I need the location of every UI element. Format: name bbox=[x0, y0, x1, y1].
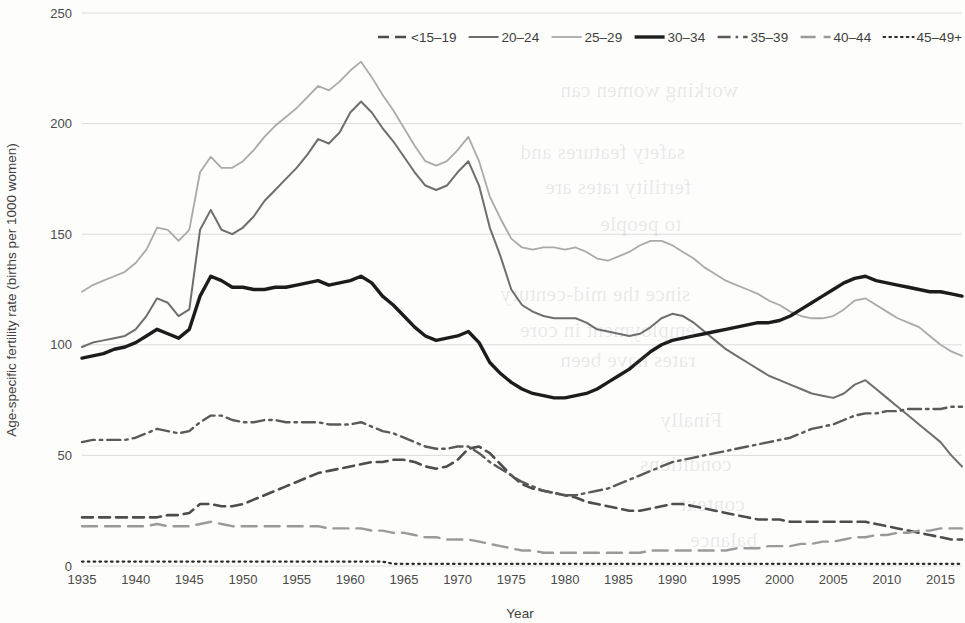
legend-label-6: 45–49+ bbox=[917, 30, 963, 45]
x-tick-2010: 2010 bbox=[872, 572, 901, 587]
x-tick-1995: 1995 bbox=[711, 572, 740, 587]
x-tick-2005: 2005 bbox=[819, 572, 848, 587]
series-group bbox=[82, 62, 962, 564]
legend-label-2: 25–29 bbox=[585, 30, 623, 45]
legend-label-3: 30–34 bbox=[668, 30, 706, 45]
series-line-2 bbox=[82, 62, 962, 356]
legend-item-1[interactable]: 20–24 bbox=[469, 30, 540, 45]
x-tick-1935: 1935 bbox=[68, 572, 97, 587]
legend-label-0: <15–19 bbox=[411, 30, 456, 45]
y-axis-title: Age-specific fertility rate (births per … bbox=[4, 143, 19, 436]
series-line-5 bbox=[82, 522, 962, 553]
series-line-3 bbox=[82, 276, 962, 398]
x-tick-1975: 1975 bbox=[497, 572, 526, 587]
legend-item-0[interactable]: <15–19 bbox=[378, 30, 456, 45]
legend-item-4[interactable]: 35–39 bbox=[718, 30, 789, 45]
series-line-0 bbox=[82, 447, 962, 540]
series-line-6 bbox=[82, 562, 962, 564]
x-tick-2000: 2000 bbox=[765, 572, 794, 587]
chart-canvas: 050100150200250 193519401945195019551960… bbox=[0, 0, 965, 623]
legend-item-3[interactable]: 30–34 bbox=[635, 30, 706, 45]
y-tick-150: 150 bbox=[50, 227, 72, 242]
x-tick-1980: 1980 bbox=[550, 572, 579, 587]
legend-item-6[interactable]: 45–49+ bbox=[884, 30, 963, 45]
y-tick-250: 250 bbox=[50, 6, 72, 21]
x-tick-2015: 2015 bbox=[926, 572, 955, 587]
legend-item-5[interactable]: 40–44 bbox=[801, 30, 872, 45]
legend-label-4: 35–39 bbox=[751, 30, 789, 45]
x-tick-1940: 1940 bbox=[121, 572, 150, 587]
y-tick-100: 100 bbox=[50, 337, 72, 352]
x-tick-1950: 1950 bbox=[229, 572, 258, 587]
y-tick-50: 50 bbox=[58, 448, 72, 463]
x-axis-title: Year bbox=[506, 606, 534, 621]
fertility-rate-chart: working women cansafety features andfert… bbox=[0, 0, 965, 623]
x-tick-1990: 1990 bbox=[658, 572, 687, 587]
series-line-4 bbox=[82, 407, 962, 495]
x-tick-1965: 1965 bbox=[389, 572, 418, 587]
x-tick-1985: 1985 bbox=[604, 572, 633, 587]
x-tick-1955: 1955 bbox=[282, 572, 311, 587]
x-axis-tick-labels: 1935194019451950195519601965197019751980… bbox=[68, 572, 955, 587]
y-tick-200: 200 bbox=[50, 116, 72, 131]
legend-label-1: 20–24 bbox=[502, 30, 540, 45]
x-tick-1960: 1960 bbox=[336, 572, 365, 587]
y-axis-tick-labels: 050100150200250 bbox=[50, 6, 72, 574]
chart-legend: <15–1920–2425–2930–3435–3940–4445–49+ bbox=[378, 30, 962, 45]
x-tick-1970: 1970 bbox=[443, 572, 472, 587]
legend-item-2[interactable]: 25–29 bbox=[552, 30, 623, 45]
x-tick-1945: 1945 bbox=[175, 572, 204, 587]
legend-label-5: 40–44 bbox=[834, 30, 872, 45]
series-line-1 bbox=[82, 101, 962, 466]
